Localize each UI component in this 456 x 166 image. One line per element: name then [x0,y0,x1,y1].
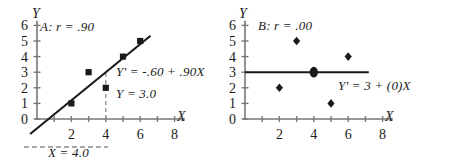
panel-a-y-axis-label: Y [32,7,40,21]
data-point [137,38,143,44]
data-point [345,52,352,61]
y-tick-label: 4 [229,50,236,65]
y-tick-label: 3 [229,65,236,80]
data-point [293,37,300,46]
panel-a-regression-equation: Y' = -.60 + .90X [116,65,205,78]
panel-a-given-value-label: X = 4.0 [48,146,89,159]
y-tick-label: 2 [229,81,236,96]
x-tick-label: 2 [276,127,283,142]
y-tick-label: 5 [229,34,236,49]
plot-group: 24680123456 [21,18,185,147]
x-tick-label: 2 [68,127,75,142]
data-point [103,85,109,91]
panel-a-x-axis-label: X [177,110,186,124]
figure-regression-comparison: 24680123456 A: r = .90 Y X Y' = -.60 + .… [0,0,456,166]
y-tick-label: 4 [21,50,28,65]
panel-b-title: B: r = .00 [258,19,312,32]
panel-b-scatter-r00: 24680123456 B: r = .00 Y X Y' = 3 + (0)X [228,0,456,166]
highlighted-data-point [310,67,318,78]
x-tick-label: 4 [102,127,109,142]
y-tick-label: 0 [229,112,236,127]
x-tick-label: 4 [310,127,317,142]
x-tick-label: 8 [171,127,178,142]
panel-b-regression-equation: Y' = 3 + (0)X [338,79,411,92]
panel-b-x-axis-label: X [385,110,394,124]
panel-a-plot-area: 24680123456 [0,0,228,166]
data-point [120,54,126,60]
data-point [276,84,283,93]
y-tick-label: 1 [21,96,28,111]
panel-b-y-axis-label: Y [239,7,247,21]
panel-a-scatter-r90: 24680123456 A: r = .90 Y X Y' = -.60 + .… [0,0,228,166]
y-tick-label: 3 [21,65,28,80]
y-tick-label: 5 [21,34,28,49]
y-tick-label: 0 [21,112,28,127]
y-tick-label: 6 [229,18,236,33]
y-tick-label: 2 [21,81,28,96]
panel-a-predicted-value-label: Y = 3.0 [116,87,156,100]
y-tick-label: 6 [21,18,28,33]
x-tick-label: 8 [379,127,386,142]
data-point [86,69,92,75]
data-point [68,100,74,106]
x-tick-label: 6 [345,127,352,142]
panel-a-title: A: r = .90 [40,20,94,33]
x-tick-label: 6 [137,127,144,142]
y-tick-label: 1 [229,96,236,111]
data-point [327,99,334,108]
